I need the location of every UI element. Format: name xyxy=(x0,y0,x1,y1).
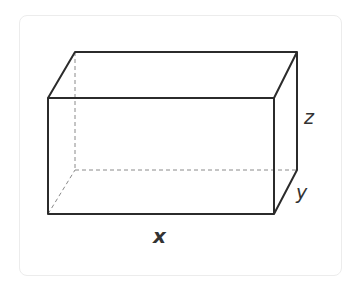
rectangular-prism-diagram: x y z xyxy=(0,0,361,289)
visible-edges xyxy=(48,52,297,214)
label-x: x xyxy=(152,224,167,248)
label-z: z xyxy=(303,106,315,128)
top-face-edges xyxy=(48,52,297,98)
front-face xyxy=(48,98,274,214)
hidden-edges xyxy=(48,52,297,214)
hidden-edge-bottom-left-depth xyxy=(48,170,75,214)
label-y: y xyxy=(295,181,308,203)
